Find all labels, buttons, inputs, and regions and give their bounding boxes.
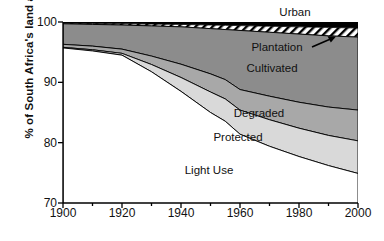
x-tick-2000: 2000 xyxy=(335,206,381,220)
x-tick-1960: 1960 xyxy=(217,206,263,220)
y-tick-90: 90 xyxy=(31,75,57,89)
x-tick-1940: 1940 xyxy=(158,206,204,220)
area-plot xyxy=(0,0,384,241)
annotation-light-use: Light Use xyxy=(185,164,234,176)
x-tick-1900: 1900 xyxy=(40,206,86,220)
annotation-plantation: Plantation xyxy=(251,41,302,53)
y-tick-100: 100 xyxy=(31,15,57,29)
annotation-urban: Urban xyxy=(279,6,310,18)
x-tick-1920: 1920 xyxy=(99,206,145,220)
annotation-cultivated: Cultivated xyxy=(246,62,297,74)
x-tick-1980: 1980 xyxy=(276,206,322,220)
chart-container: % of South Africa's land area 100 90 80 … xyxy=(0,0,384,241)
annotation-degraded: Degraded xyxy=(234,107,285,119)
y-tick-80: 80 xyxy=(31,136,57,150)
annotation-protected: Protected xyxy=(213,131,262,143)
